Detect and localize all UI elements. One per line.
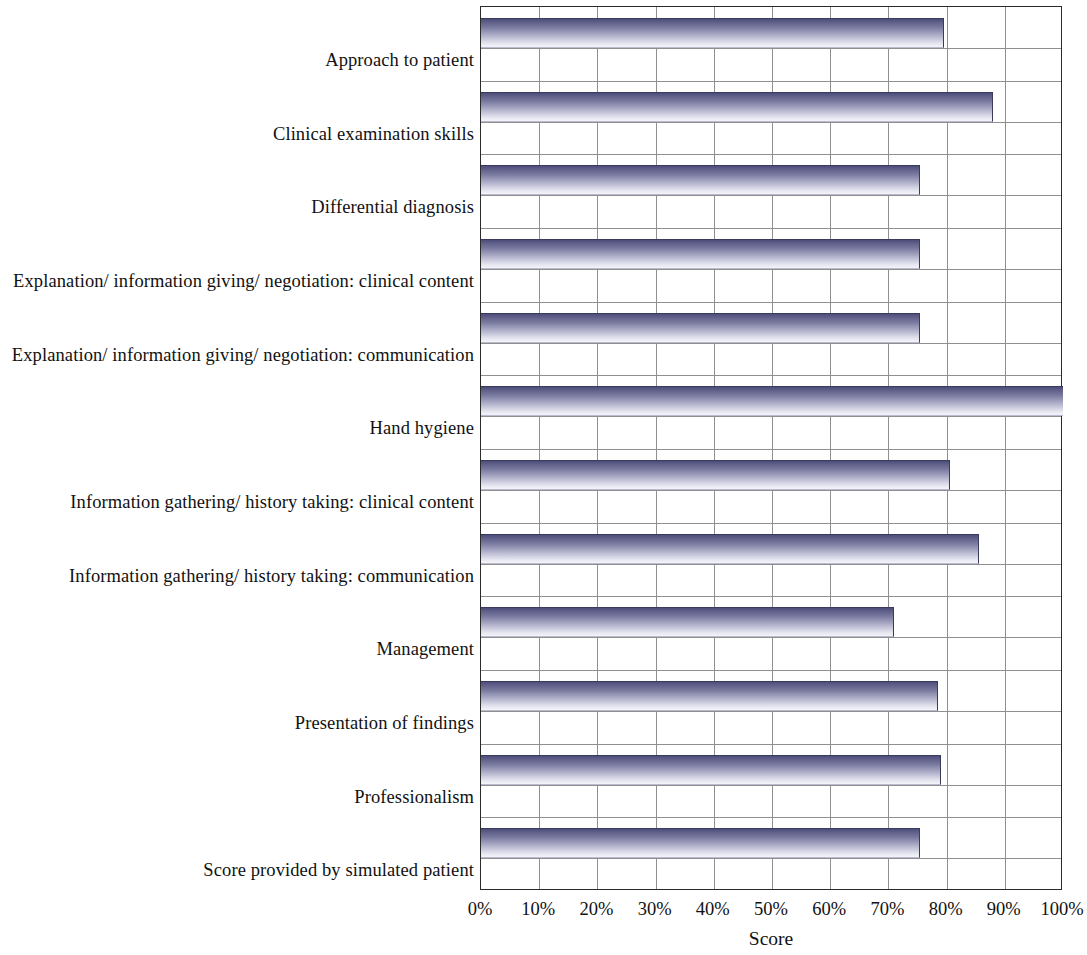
bar <box>481 828 920 858</box>
gridline-horizontal <box>481 416 1061 417</box>
x-tick-label: 80% <box>929 898 963 920</box>
gridline-horizontal <box>481 228 1061 229</box>
gridline-horizontal <box>481 449 1061 450</box>
gridline-horizontal <box>481 817 1061 818</box>
category-label: Differential diagnosis <box>311 197 474 217</box>
category-label: Score provided by simulated patient <box>203 860 474 880</box>
bar <box>481 386 1063 416</box>
gridline-horizontal <box>481 490 1061 491</box>
x-axis-title: Score <box>480 928 1062 950</box>
category-label: Management <box>376 639 474 659</box>
gridline-vertical <box>947 7 948 889</box>
bar <box>481 534 979 564</box>
gridline-horizontal <box>481 637 1061 638</box>
x-tick-label: 70% <box>870 898 904 920</box>
gridline-horizontal <box>481 154 1061 155</box>
bar-chart: You Approach to patientClinical examinat… <box>0 0 1087 955</box>
gridline-horizontal <box>481 81 1061 82</box>
gridline-horizontal <box>481 122 1061 123</box>
bar <box>481 607 894 637</box>
x-tick-label: 0% <box>468 898 493 920</box>
bar <box>481 239 920 269</box>
category-label: Information gathering/ history taking: c… <box>69 566 474 586</box>
bar <box>481 313 920 343</box>
category-label: Approach to patient <box>325 50 474 70</box>
gridline-horizontal <box>481 744 1061 745</box>
bar <box>481 681 938 711</box>
bar <box>481 755 941 785</box>
plot-area: You <box>480 6 1062 890</box>
gridline-horizontal <box>481 785 1061 786</box>
x-tick-label: 90% <box>987 898 1021 920</box>
gridline-horizontal <box>481 375 1061 376</box>
bar <box>481 92 993 122</box>
bar <box>481 460 950 490</box>
x-tick-label: 10% <box>521 898 555 920</box>
gridline-horizontal <box>481 269 1061 270</box>
gridline-horizontal <box>481 711 1061 712</box>
gridline-horizontal <box>481 564 1061 565</box>
bar <box>481 165 920 195</box>
x-tick-label: 100% <box>1040 898 1083 920</box>
gridline-horizontal <box>481 343 1061 344</box>
gridline-vertical <box>1005 7 1006 889</box>
gridline-horizontal <box>481 596 1061 597</box>
category-label: Clinical examination skills <box>273 124 474 144</box>
x-tick-label: 50% <box>754 898 788 920</box>
x-tick-label: 40% <box>696 898 730 920</box>
category-label: Presentation of findings <box>295 713 474 733</box>
gridline-horizontal <box>481 670 1061 671</box>
gridline-horizontal <box>481 523 1061 524</box>
category-label: Explanation/ information giving/ negotia… <box>13 271 474 291</box>
gridline-horizontal <box>481 195 1061 196</box>
gridline-horizontal <box>481 858 1061 859</box>
gridline-horizontal <box>481 48 1061 49</box>
x-tick-label: 30% <box>638 898 672 920</box>
bar <box>481 18 944 48</box>
x-tick-label: 60% <box>812 898 846 920</box>
gridline-horizontal <box>481 302 1061 303</box>
category-label: Professionalism <box>354 787 474 807</box>
category-label: Hand hygiene <box>370 418 474 438</box>
category-label: Explanation/ information giving/ negotia… <box>12 345 474 365</box>
x-tick-label: 20% <box>579 898 613 920</box>
category-label: Information gathering/ history taking: c… <box>70 492 474 512</box>
